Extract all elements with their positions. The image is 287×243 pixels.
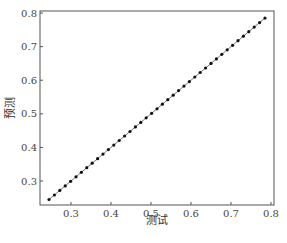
data-point xyxy=(166,98,169,101)
data-point xyxy=(155,107,158,110)
y-tick-label: 0.6 xyxy=(21,75,37,86)
data-point xyxy=(188,80,191,83)
data-point xyxy=(220,53,223,56)
data-point xyxy=(91,162,94,165)
data-point xyxy=(64,184,67,187)
y-tick-label: 0.3 xyxy=(21,176,37,187)
x-tick-label: 0.6 xyxy=(183,208,199,219)
data-point xyxy=(247,30,250,33)
data-point xyxy=(74,175,77,178)
data-point xyxy=(69,180,72,183)
data-point xyxy=(226,48,229,51)
data-point xyxy=(101,153,104,156)
data-point xyxy=(107,148,110,151)
data-point xyxy=(112,144,115,147)
data-point xyxy=(96,157,99,160)
data-point xyxy=(85,166,88,169)
data-point xyxy=(215,57,218,60)
data-point xyxy=(150,112,153,115)
y-tick-label: 0.4 xyxy=(21,142,37,153)
data-point xyxy=(161,103,164,106)
data-point xyxy=(58,189,61,192)
data-point xyxy=(172,94,175,97)
x-tick-label: 0.8 xyxy=(263,208,279,219)
x-tick-label: 0.3 xyxy=(63,208,79,219)
data-point xyxy=(118,139,121,142)
data-point xyxy=(253,26,256,29)
x-tick-label: 0.4 xyxy=(103,208,119,219)
y-tick-label: 0.7 xyxy=(21,41,37,52)
x-axis-label: 测试 xyxy=(146,214,168,227)
data-point xyxy=(236,39,239,42)
data-point xyxy=(123,134,126,137)
data-point xyxy=(134,125,137,128)
y-axis-label: 预测 xyxy=(4,97,17,119)
data-point xyxy=(128,130,131,133)
data-point xyxy=(182,85,185,88)
data-points xyxy=(47,17,266,202)
data-point xyxy=(258,21,261,24)
data-point xyxy=(263,17,266,20)
y-tick-label: 0.5 xyxy=(21,108,37,119)
data-point xyxy=(53,193,56,196)
data-point xyxy=(242,35,245,38)
data-point xyxy=(145,116,148,119)
data-point xyxy=(209,62,212,65)
data-point xyxy=(199,71,202,74)
data-point xyxy=(139,121,142,124)
data-point xyxy=(193,75,196,78)
scatter-chart: 0.30.40.50.60.70.8 0.30.40.50.60.70.8 测试… xyxy=(0,0,287,243)
data-point xyxy=(80,171,83,174)
data-point xyxy=(231,44,234,47)
y-tick-label: 0.8 xyxy=(21,8,37,19)
data-point xyxy=(177,89,180,92)
data-point xyxy=(204,66,207,69)
x-tick-label: 0.7 xyxy=(223,208,239,219)
data-point xyxy=(47,198,50,201)
